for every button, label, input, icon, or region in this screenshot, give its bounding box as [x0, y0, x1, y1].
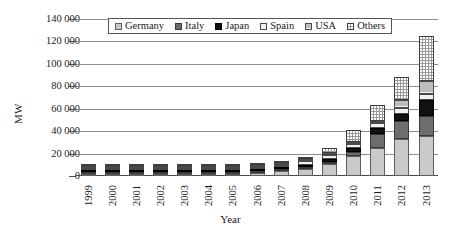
- spain-swatch: [260, 23, 267, 30]
- x-tick-slot: 2005: [221, 178, 245, 212]
- x-tick-slot: 2001: [124, 178, 148, 212]
- legend-item-spain[interactable]: Spain: [260, 21, 294, 32]
- legend-item-japan[interactable]: Japan: [215, 21, 249, 32]
- x-tick-slot: 2008: [293, 178, 317, 212]
- stacked-bar[interactable]: [322, 148, 337, 176]
- stacked-bar[interactable]: [153, 164, 168, 176]
- stacked-bar[interactable]: [419, 36, 434, 176]
- stacked-bar[interactable]: [177, 164, 192, 176]
- bar-segment-germany: [322, 164, 337, 176]
- bar-segment-others: [394, 77, 409, 100]
- legend-label: Japan: [225, 21, 249, 32]
- usa-swatch: [305, 23, 312, 30]
- stacked-bar[interactable]: [105, 164, 120, 176]
- bar-segment-germany: [419, 136, 434, 176]
- y-axis-title: MW: [2, 57, 14, 78]
- bar-segment-germany: [370, 148, 385, 176]
- stacked-bar[interactable]: [346, 130, 361, 176]
- x-tick-slot: 1999: [76, 178, 100, 212]
- others-swatch: [347, 23, 354, 30]
- x-tick-label: 2011: [372, 185, 383, 206]
- x-tick-slot: 2000: [100, 178, 124, 212]
- stacked-bar[interactable]: [274, 161, 289, 176]
- x-axis-title: Year: [0, 213, 461, 225]
- legend-label: Others: [357, 21, 385, 32]
- x-tick-label: 2000: [107, 185, 118, 206]
- bar-slot: [293, 19, 317, 176]
- y-tick-mark: [69, 86, 76, 87]
- bar-slot: [197, 19, 221, 176]
- stacked-bar[interactable]: [201, 164, 216, 176]
- x-tick-label: 2006: [252, 185, 263, 206]
- y-tick-mark: [69, 176, 76, 177]
- x-tick-slot: 2003: [173, 178, 197, 212]
- legend-label: Italy: [185, 21, 204, 32]
- chart-legend: GermanyItalyJapanSpainUSAOthers: [108, 18, 392, 34]
- bar-slot: [76, 19, 100, 176]
- x-tick-label: 2010: [348, 185, 359, 206]
- x-tick-slot: 2013: [414, 178, 438, 212]
- bar-slot: [245, 19, 269, 176]
- stacked-bar[interactable]: [394, 77, 409, 176]
- stacked-bar[interactable]: [370, 105, 385, 176]
- bar-segment-others: [370, 105, 385, 121]
- x-tick-label: 2005: [227, 185, 238, 206]
- bar-slot: [100, 19, 124, 176]
- bar-segment-others: [419, 36, 434, 81]
- bar-series-container: [76, 19, 438, 176]
- y-tick-mark: [69, 109, 76, 110]
- bar-segment-japan: [419, 100, 434, 115]
- y-tick-mark: [69, 41, 76, 42]
- x-tick-slot: 2011: [366, 178, 390, 212]
- bar-segment-germany: [81, 174, 96, 176]
- legend-item-usa[interactable]: USA: [305, 21, 336, 32]
- x-tick-slot: 2007: [269, 178, 293, 212]
- bar-segment-japan: [394, 114, 409, 121]
- bar-segment-italy: [419, 116, 434, 136]
- bar-slot: [173, 19, 197, 176]
- x-tick-slot: 2004: [197, 178, 221, 212]
- stacked-bar[interactable]: [129, 164, 144, 176]
- japan-swatch: [215, 23, 222, 30]
- bar-segment-italy: [370, 134, 385, 148]
- x-axis-ticks: 1999200020012002200320042005200620072008…: [76, 178, 438, 212]
- bar-slot: [124, 19, 148, 176]
- bar-segment-germany: [201, 174, 216, 176]
- bar-segment-germany: [346, 156, 361, 176]
- bar-segment-usa: [419, 81, 434, 95]
- bar-segment-germany: [153, 174, 168, 176]
- x-tick-slot: 2009: [317, 178, 341, 212]
- bar-slot: [269, 19, 293, 176]
- stacked-bar[interactable]: [81, 164, 96, 176]
- italy-swatch: [175, 23, 182, 30]
- bar-segment-germany: [298, 169, 313, 176]
- y-tick-mark: [69, 64, 76, 65]
- x-tick-label: 2003: [179, 185, 190, 206]
- x-tick-label: 1999: [83, 185, 94, 206]
- x-tick-label: 2004: [203, 185, 214, 206]
- bar-segment-italy: [394, 121, 409, 139]
- stacked-bar[interactable]: [250, 163, 265, 176]
- bar-slot: [414, 19, 438, 176]
- legend-item-others[interactable]: Others: [347, 21, 385, 32]
- legend-item-italy[interactable]: Italy: [175, 21, 204, 32]
- bar-segment-germany: [394, 139, 409, 176]
- x-tick-label: 2013: [421, 185, 432, 206]
- bar-slot: [317, 19, 341, 176]
- legend-item-germany[interactable]: Germany: [115, 21, 164, 32]
- x-tick-label: 2001: [131, 185, 142, 206]
- x-tick-label: 2007: [276, 185, 287, 206]
- stacked-bar[interactable]: [298, 157, 313, 176]
- y-tick-mark: [69, 131, 76, 132]
- bar-segment-others: [346, 130, 361, 142]
- x-tick-slot: 2002: [148, 178, 172, 212]
- y-tick-mark: [69, 154, 76, 155]
- bar-segment-usa: [394, 100, 409, 108]
- bar-slot: [366, 19, 390, 176]
- bar-segment-germany: [129, 174, 144, 176]
- bar-segment-germany: [105, 174, 120, 176]
- stacked-bar[interactable]: [225, 164, 240, 176]
- stacked-bar-chart: MW 140 000120 000100 00080 00060 00040 0…: [0, 0, 461, 234]
- x-tick-label: 2012: [396, 185, 407, 206]
- germany-swatch: [115, 23, 122, 30]
